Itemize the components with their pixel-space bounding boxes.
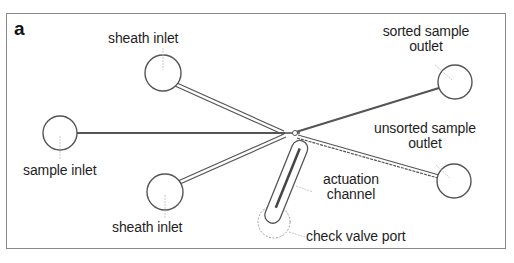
port-unsorted-outlet	[437, 164, 471, 198]
port-sample-inlet	[43, 116, 77, 150]
panel-label: a	[14, 20, 25, 38]
label-actuation-channel: actuation channel	[314, 172, 388, 202]
label-check-valve-port: check valve port	[306, 229, 406, 244]
port-sorted-outlet	[438, 65, 472, 99]
label-sheath-inlet-bottom: sheath inlet	[112, 220, 182, 235]
label-unsorted-sample-outlet: unsorted sample outlet	[360, 121, 490, 151]
sheath-top-channel	[177, 83, 284, 131]
label-unsorted-line2: outlet	[360, 136, 490, 151]
label-sorted-sample-outlet: sorted sample outlet	[368, 24, 484, 54]
actuation-channel-shape	[262, 138, 310, 226]
label-unsorted-line1: unsorted sample	[360, 121, 490, 136]
label-actuation-line1: actuation	[314, 172, 388, 187]
label-sheath-inlet-top: sheath inlet	[108, 31, 178, 46]
label-actuation-line2: channel	[314, 187, 388, 202]
label-sorted-line1: sorted sample	[368, 24, 484, 39]
sheath-bottom-channel	[178, 134, 284, 181]
label-sorted-line2: outlet	[368, 39, 484, 54]
label-sample-inlet: sample inlet	[23, 163, 97, 178]
